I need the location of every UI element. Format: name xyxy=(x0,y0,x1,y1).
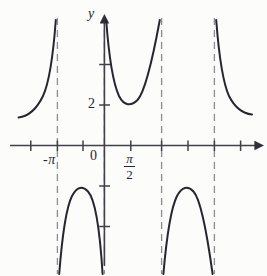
branch-lower-left xyxy=(59,188,102,274)
cosecant-graph-figure: y 0 -π 2 π 2 xyxy=(0,0,267,276)
branch-upper-middle xyxy=(106,20,160,104)
branch-upper-left xyxy=(19,20,56,118)
plot-canvas xyxy=(0,0,267,276)
y-tick-label-2: 2 xyxy=(88,96,95,112)
x-tick-label-pi-over-2: π 2 xyxy=(124,152,135,181)
fraction-denominator: 2 xyxy=(124,167,135,181)
y-axis-label: y xyxy=(88,6,94,22)
axis-group xyxy=(10,22,256,266)
branch-lower-right xyxy=(163,188,212,274)
branch-upper-right xyxy=(216,20,252,115)
origin-label: 0 xyxy=(90,148,97,164)
cosecant-curve-group xyxy=(19,20,253,274)
fraction-numerator: π xyxy=(124,152,135,166)
x-tick-label-neg-pi: -π xyxy=(43,152,56,168)
